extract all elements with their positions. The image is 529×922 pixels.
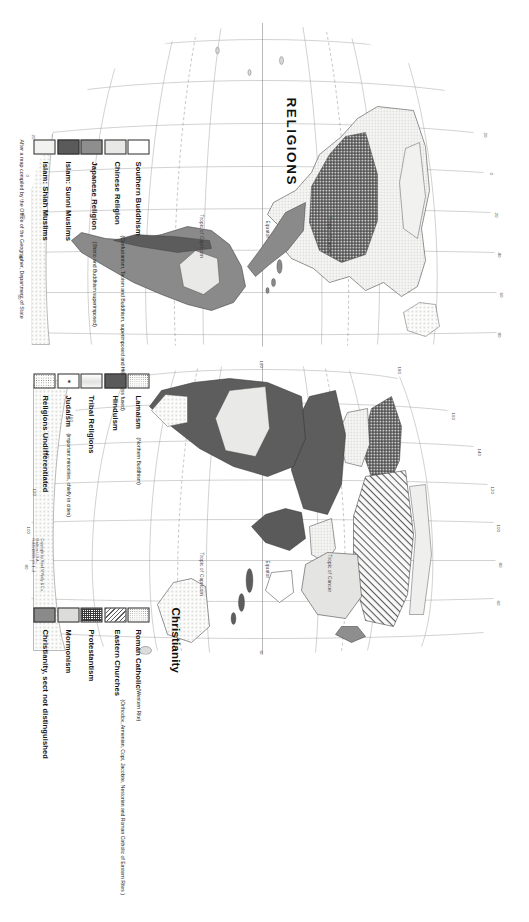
legend-sublabel: (Western Rite) <box>135 688 141 721</box>
page-title: RELIGIONS <box>283 97 298 186</box>
svg-text:20: 20 <box>493 212 498 217</box>
legend-label: Mormonism <box>63 629 72 673</box>
svg-text:180: 180 <box>258 360 263 368</box>
legend-label: Southern Buddhism <box>133 161 142 235</box>
legend-label: Islam: Shiah Muslims <box>40 161 49 240</box>
svg-text:60: 60 <box>258 650 263 654</box>
legend-label: Christianity, sect not distinguished <box>40 629 49 759</box>
legend-label: Japanese Religion <box>89 161 98 229</box>
legend-label: Chinese Religion <box>112 161 121 224</box>
svg-text:100: 100 <box>495 524 500 532</box>
svg-text:80: 80 <box>23 564 28 569</box>
svg-text:0: 0 <box>24 174 29 177</box>
svg-text:120: 120 <box>31 488 36 496</box>
star-of-david-icon: ✶ <box>58 374 78 387</box>
svg-text:80: 80 <box>497 562 502 567</box>
svg-text:80: 80 <box>496 332 501 337</box>
svg-text:Tropic of Cancer: Tropic of Cancer <box>326 216 331 254</box>
svg-text:60: 60 <box>495 600 500 605</box>
copyright-notice: Copyright by Rand MªNally & Co. Made in … <box>29 538 43 591</box>
swatch-roman-catholic <box>127 607 149 622</box>
swatch-tribal-religions <box>80 373 102 388</box>
swatch-hinduism <box>104 373 126 388</box>
swatch-protestantism <box>80 607 102 622</box>
svg-text:60: 60 <box>498 292 503 297</box>
swatch-islam-sunni <box>57 139 79 154</box>
legend-label: Lamaism <box>133 395 142 429</box>
map-graphic: Tropic of Cancer Equator Tropic of Capri… <box>12 14 517 654</box>
world-map[interactable]: Tropic of Cancer Equator Tropic of Capri… <box>12 14 517 654</box>
svg-text:Tropic of Capricorn: Tropic of Capricorn <box>198 552 203 596</box>
legend-label: Religions Undifferentiated <box>40 395 49 492</box>
swatch-religions-undifferentiated <box>33 373 55 388</box>
legend-label: Protestantism <box>86 629 95 681</box>
legend-label: Roman Catholic <box>133 629 142 688</box>
legend-label: Judaism <box>63 395 72 427</box>
svg-text:Equator: Equator <box>264 220 269 238</box>
legend-label: Tribal Religions <box>86 395 95 453</box>
map-plate: Tropic of Cancer Equator Tropic of Capri… <box>0 0 529 922</box>
svg-text:100: 100 <box>25 526 30 534</box>
svg-text:20: 20 <box>482 132 487 137</box>
swatch-japanese-religion <box>80 139 102 154</box>
swatch-southern-buddhism <box>127 139 149 154</box>
svg-text:180: 180 <box>396 366 401 374</box>
legend-heading-christianity: Christianity <box>169 607 181 673</box>
svg-text:Tropic of Capricorn: Tropic of Capricorn <box>198 214 203 258</box>
legend-sublabel: (Orthodox, Armenian, Copt, Jacobite, Nes… <box>118 699 124 894</box>
svg-text:160: 160 <box>450 412 455 420</box>
svg-text:120: 120 <box>489 486 494 494</box>
legend-sublabel: (Northern Buddhism) <box>135 437 141 484</box>
swatch-eastern-churches <box>104 607 126 622</box>
svg-text:Tropic of Cancer: Tropic of Cancer <box>326 554 331 592</box>
legend-label: Islam: Sunni Muslims <box>63 161 72 241</box>
swatch-lamaism <box>127 373 149 388</box>
legend-label: Hinduism <box>110 395 119 430</box>
legend-label: Eastern Churches <box>112 629 121 696</box>
svg-text:40: 40 <box>496 252 501 257</box>
screenshot-root: Tropic of Cancer Equator Tropic of Capri… <box>0 0 529 922</box>
legend-sublabel: (important minorities, chiefly in cities… <box>65 433 71 517</box>
svg-text:0: 0 <box>488 172 493 175</box>
svg-text:140: 140 <box>476 448 481 456</box>
swatch-judaism: ✶ <box>57 373 79 388</box>
svg-text:Equator: Equator <box>264 560 269 578</box>
swatch-chinese-religion <box>104 139 126 154</box>
swatch-islam-shiah <box>33 139 55 154</box>
swatch-christianity-undistinguished <box>33 607 55 622</box>
source-credit: After a map compiled by the Office of th… <box>18 139 24 318</box>
legend-sublabel: (Shinto and Buddhism superimposed) <box>90 241 96 326</box>
swatch-mormonism <box>57 607 79 622</box>
